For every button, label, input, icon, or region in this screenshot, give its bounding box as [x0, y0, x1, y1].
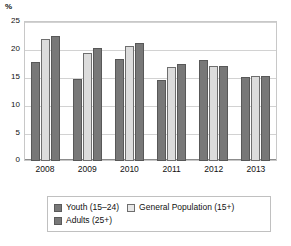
y-tick-label-20: 20 — [0, 45, 20, 53]
x-axis-labels: 200820092010201120122013 — [24, 164, 277, 176]
bar[interactable] — [83, 53, 92, 161]
bar-group — [24, 21, 66, 161]
bar[interactable] — [157, 80, 166, 161]
bar[interactable] — [251, 76, 260, 161]
bar[interactable] — [199, 60, 208, 161]
bar-group — [66, 21, 108, 161]
bar-group — [151, 21, 193, 161]
chart-legend: Youth (15–24) General Population (15+) A… — [47, 196, 271, 232]
legend-row-1: Youth (15–24) General Population (15+) — [54, 201, 265, 214]
legend-swatch-general-population-icon — [127, 204, 135, 212]
legend-label-adults: Adults (25+) — [66, 216, 112, 225]
bar[interactable] — [241, 77, 250, 161]
x-tick-label: 2012 — [193, 164, 235, 174]
bar[interactable] — [209, 66, 218, 161]
bar[interactable] — [167, 67, 176, 161]
legend-row-2: Adults (25+) — [54, 214, 265, 227]
bar[interactable] — [51, 36, 60, 161]
bar[interactable] — [41, 39, 50, 161]
x-tick-label: 2008 — [24, 164, 66, 174]
bar[interactable] — [115, 59, 124, 161]
bar-group — [193, 21, 235, 161]
y-tick-label-5: 5 — [0, 129, 20, 137]
bar-chart: % 25 20 15 10 5 0 2008200920102011201220… — [0, 0, 291, 246]
bar[interactable] — [219, 66, 228, 161]
y-tick-label-25: 25 — [0, 17, 20, 25]
legend-item-adults[interactable]: Adults (25+) — [54, 216, 112, 225]
bar[interactable] — [93, 48, 102, 161]
bar[interactable] — [261, 76, 270, 161]
legend-label-general-population: General Population (15+) — [139, 203, 234, 212]
legend-swatch-youth-icon — [54, 204, 62, 212]
x-tick-label: 2011 — [151, 164, 193, 174]
bar[interactable] — [135, 43, 144, 161]
y-axis-unit-label: % — [5, 2, 12, 11]
y-tick-label-10: 10 — [0, 101, 20, 109]
bar[interactable] — [125, 46, 134, 161]
legend-item-general-population[interactable]: General Population (15+) — [127, 203, 234, 212]
x-tick-label: 2013 — [235, 164, 277, 174]
y-tick-label-0: 0 — [0, 156, 20, 164]
bar-group — [108, 21, 150, 161]
bar[interactable] — [73, 79, 82, 161]
bar[interactable] — [31, 62, 40, 161]
x-tick-label: 2009 — [66, 164, 108, 174]
y-tick-label-15: 15 — [0, 73, 20, 81]
bar-group — [235, 21, 277, 161]
bar[interactable] — [177, 64, 186, 161]
bar-groups — [24, 21, 277, 161]
legend-swatch-adults-icon — [54, 217, 62, 225]
x-tick-label: 2010 — [108, 164, 150, 174]
legend-item-youth[interactable]: Youth (15–24) — [54, 203, 119, 212]
legend-label-youth: Youth (15–24) — [66, 203, 119, 212]
